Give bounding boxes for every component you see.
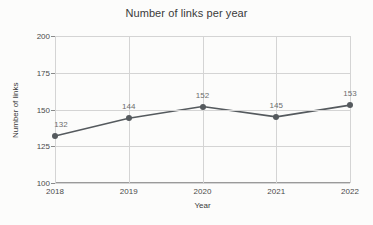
data-point-label: 153 — [343, 89, 356, 98]
y-axis-tick — [51, 183, 55, 184]
x-axis-title: Year — [55, 201, 350, 210]
x-axis-tick-label: 2021 — [267, 187, 285, 196]
plot-area: 132144152145153 — [55, 36, 350, 183]
x-axis-tick-label: 2020 — [194, 187, 212, 196]
data-point-label: 152 — [196, 91, 209, 100]
data-point-label: 144 — [122, 102, 135, 111]
gridline-horizontal — [55, 183, 350, 184]
y-axis-tick-label: 150 — [37, 105, 50, 114]
y-axis-title: Number of links — [9, 68, 21, 152]
data-point[interactable] — [52, 133, 58, 139]
y-axis-tick-label: 125 — [37, 142, 50, 151]
y-axis-tick-labels: 100125150175200 — [26, 36, 50, 183]
gridline-vertical — [350, 36, 351, 183]
y-axis-tick-label: 200 — [37, 32, 50, 41]
data-point[interactable] — [200, 104, 206, 110]
data-point[interactable] — [347, 102, 353, 108]
x-axis-tick-label: 2018 — [46, 187, 64, 196]
y-axis-tick-label: 175 — [37, 68, 50, 77]
chart-canvas: Number of links per year Number of links… — [0, 0, 373, 225]
chart-title: Number of links per year — [0, 7, 373, 19]
x-axis-tick-label: 2019 — [120, 187, 138, 196]
gridline-vertical — [55, 36, 56, 183]
data-point-label: 145 — [270, 101, 283, 110]
x-axis-tick-label: 2022 — [341, 187, 359, 196]
x-axis-tick-labels: 20182019202020212022 — [55, 187, 350, 199]
data-point-label: 132 — [54, 120, 67, 129]
